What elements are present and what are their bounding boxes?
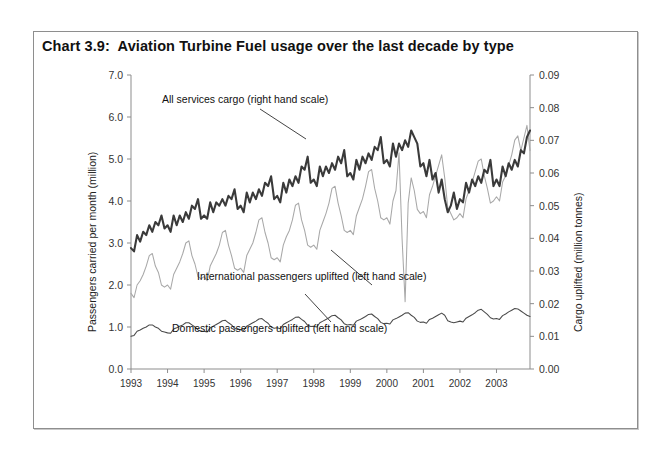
x-axis-tick-label: 1997: [266, 378, 289, 389]
left-axis-tick-label: 4.0: [108, 195, 123, 207]
right-axis-tick-label: 0.03: [539, 265, 560, 277]
right-axis-tick-label: 0.02: [539, 298, 560, 310]
x-axis-tick-label: 2003: [485, 378, 508, 389]
x-axis-tick-label: 2002: [449, 378, 472, 389]
right-axis-title: Cargo uplifted (million tonnes): [572, 193, 584, 332]
series-line-cargo: [131, 131, 530, 252]
annotation-cargo: All services cargo (right hand scale): [162, 93, 328, 105]
left-axis-tick-label: 3.0: [108, 237, 123, 249]
x-axis-tick-group: 1993199419951996199719981999200020012002…: [120, 369, 508, 389]
x-axis-tick-label: 1999: [339, 378, 362, 389]
left-axis-tick-label: 7.0: [108, 69, 123, 81]
left-axis-tick-label: 0.0: [108, 363, 123, 375]
left-axis-tick-group: 0.01.02.03.04.05.06.07.0: [108, 69, 131, 375]
right-axis-tick-group: 0.000.010.020.030.040.050.060.070.080.09: [530, 69, 560, 375]
right-axis-tick-label: 0.07: [539, 134, 560, 146]
left-axis-tick-label: 6.0: [108, 111, 123, 123]
domestic-leader-line: [305, 294, 331, 322]
right-axis-tick-label: 0.08: [539, 102, 560, 114]
annotation-domestic: Domestic passengers uplifted (left hand …: [172, 322, 387, 334]
right-axis-tick-label: 0.06: [539, 167, 560, 179]
x-axis-tick-label: 1996: [230, 378, 253, 389]
x-axis-tick-label: 1993: [120, 378, 143, 389]
x-axis-tick-label: 1995: [193, 378, 216, 389]
annotation-international: International passengers uplifted (left …: [197, 270, 426, 282]
chart-svg: 0.01.02.03.04.05.06.07.0 0.000.010.020.0…: [34, 32, 637, 428]
right-axis-tick-label: 0.01: [539, 330, 560, 342]
right-axis-tick-label: 0.05: [539, 200, 560, 212]
x-axis-tick-label: 2001: [412, 378, 435, 389]
x-axis-tick-label: 1998: [303, 378, 326, 389]
left-axis-tick-label: 2.0: [108, 279, 123, 291]
left-axis-tick-label: 5.0: [108, 153, 123, 165]
right-axis-tick-label: 0.00: [539, 363, 560, 375]
x-axis-tick-label: 2000: [376, 378, 399, 389]
right-axis-tick-label: 0.04: [539, 232, 560, 244]
x-axis-tick-label: 1994: [156, 378, 179, 389]
right-axis-tick-label: 0.09: [539, 69, 560, 81]
chart-plot-area: 0.01.02.03.04.05.06.07.0 0.000.010.020.0…: [34, 32, 637, 428]
chart-frame: Chart 3.9: Aviation Turbine Fuel usage o…: [33, 31, 638, 429]
cargo-leader-line: [260, 109, 306, 139]
left-axis-title: Passengers carried per month (million): [86, 152, 98, 332]
left-axis-tick-label: 1.0: [108, 321, 123, 333]
